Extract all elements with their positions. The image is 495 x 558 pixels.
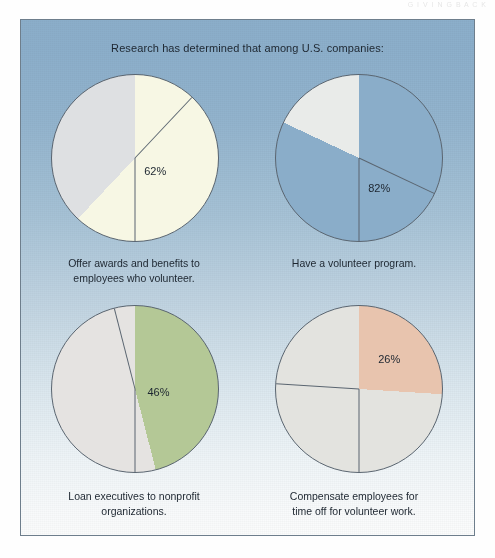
pie-chart-cell-4: 26% Compensate employees for time off fo… (249, 305, 459, 519)
pie-slice-divider (114, 308, 136, 389)
pie-slice-divider (135, 389, 136, 472)
pie-slice-divider (359, 389, 360, 472)
pie-chart-cell-3: 46% Loan executives to nonprofit organiz… (29, 305, 239, 519)
pie-chart-cell-2: 82% Have a volunteer program. (249, 74, 459, 271)
pie-caption-4: Compensate employees for time off for vo… (249, 489, 459, 519)
pie-caption-2: Have a volunteer program. (249, 256, 459, 271)
pie-caption-2-line-1: Have a volunteer program. (255, 256, 453, 271)
pie-chart-1[interactable] (51, 74, 219, 242)
pie-chart-2[interactable] (275, 74, 443, 242)
pie-wrap-2: 82% (275, 74, 443, 242)
pie-slice-divider (276, 383, 359, 389)
figure-page: G I V I N G B A C K Research has determi… (0, 0, 495, 558)
pie-chart-3[interactable] (51, 305, 219, 473)
pie-label-3: 46% (148, 386, 170, 398)
pie-label-2: 82% (368, 182, 390, 194)
pie-caption-3: Loan executives to nonprofit organizatio… (29, 489, 239, 519)
pie-caption-4-line-1: Compensate employees for (255, 489, 453, 504)
running-head-text: G I V I N G B A C K (408, 0, 487, 9)
pie-wrap-1: 62% (51, 74, 219, 242)
pie-slice-divider (135, 158, 136, 241)
pie-slice-divider (359, 158, 360, 241)
pie-chart-4[interactable] (275, 305, 443, 473)
pie-wrap-4: 26% (275, 305, 443, 473)
figure-title: Research has determined that among U.S. … (21, 42, 474, 54)
pie-caption-3-line-1: Loan executives to nonprofit organizatio… (35, 489, 233, 519)
pie-label-4: 26% (378, 353, 400, 365)
pie-caption-1-line-2: employees who volunteer. (35, 271, 233, 286)
pie-wrap-3: 46% (51, 305, 219, 473)
pie-caption-1-line-1: Offer awards and benefits to (35, 256, 233, 271)
figure-panel: Research has determined that among U.S. … (20, 19, 475, 536)
pie-chart-cell-1: 62% Offer awards and benefits to employe… (29, 74, 239, 286)
pie-label-1: 62% (144, 165, 166, 177)
pie-caption-4-line-2: time off for volunteer work. (255, 504, 453, 519)
pie-slice-divider (135, 97, 193, 158)
pie-caption-1: Offer awards and benefits to employees w… (29, 256, 239, 286)
